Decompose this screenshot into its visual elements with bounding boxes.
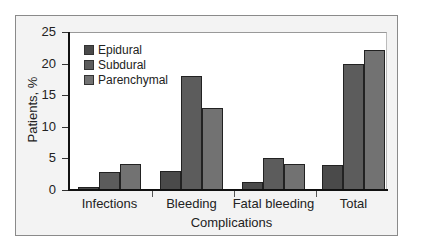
- y-tick-mark: [62, 95, 68, 96]
- x-tick-mark: [234, 191, 235, 197]
- y-tick-label: 20: [34, 56, 56, 71]
- x-axis-title: Complications: [0, 215, 423, 230]
- legend-swatch: [84, 60, 94, 70]
- y-tick-label: 25: [34, 24, 56, 39]
- y-tick-mark: [62, 32, 68, 33]
- x-category-label: Fatal bleeding: [233, 196, 315, 211]
- x-tick-mark: [152, 191, 153, 197]
- legend-item-epidural: Epidural: [84, 42, 168, 57]
- x-category-label: Bleeding: [151, 196, 233, 211]
- legend-item-subdural: Subdural: [84, 57, 168, 72]
- x-axis: [68, 189, 388, 191]
- x-category-label: Infections: [69, 196, 151, 211]
- bar-epidural-bleeding: [160, 171, 181, 190]
- bar-subdural-fatal-bleeding: [263, 158, 284, 190]
- y-tick-mark: [62, 158, 68, 159]
- legend-label: Parenchymal: [98, 73, 168, 87]
- bar-parenchymal-total: [364, 50, 385, 190]
- y-axis: [68, 32, 70, 191]
- bar-parenchymal-infections: [120, 164, 141, 190]
- y-tick-mark: [62, 64, 68, 65]
- legend-item-parenchymal: Parenchymal: [84, 72, 168, 87]
- x-tick-mark: [316, 191, 317, 197]
- bar-subdural-bleeding: [181, 76, 202, 190]
- bar-subdural-total: [343, 64, 364, 190]
- bar-parenchymal-fatal-bleeding: [284, 164, 305, 190]
- bar-subdural-infections: [99, 172, 120, 190]
- legend-swatch: [84, 75, 94, 85]
- y-axis-title: Patients, %: [25, 70, 40, 150]
- legend: EpiduralSubduralParenchymal: [84, 42, 168, 87]
- legend-swatch: [84, 45, 94, 55]
- legend-label: Subdural: [98, 58, 146, 72]
- x-category-label: Total: [313, 196, 395, 211]
- y-tick-label: 5: [34, 150, 56, 165]
- y-tick-label: 0: [34, 182, 56, 197]
- bar-epidural-total: [322, 165, 343, 190]
- y-tick-mark: [62, 127, 68, 128]
- y-tick-mark: [62, 190, 68, 191]
- bar-parenchymal-bleeding: [202, 108, 223, 190]
- legend-label: Epidural: [98, 43, 142, 57]
